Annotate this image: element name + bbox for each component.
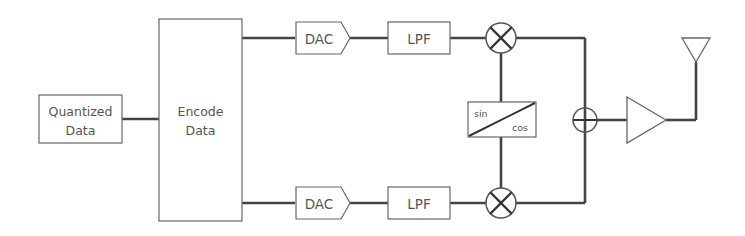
oscillator-cos-label: cos <box>512 122 528 133</box>
mixer-top-icon <box>486 23 516 53</box>
transmitter-block-diagram: Quantized Data Encode Data DAC LPF DAC L… <box>0 0 745 236</box>
encode-data-label-2: Data <box>186 123 216 138</box>
quantized-data-label-1: Quantized <box>49 104 113 119</box>
quantized-data-block: Quantized Data <box>39 95 122 143</box>
dac-top-label: DAC <box>305 31 334 47</box>
antenna-icon <box>682 38 710 62</box>
lpf-top-label: LPF <box>407 31 430 47</box>
oscillator-block: sin cos <box>468 102 536 137</box>
dac-bottom-block: DAC <box>296 187 350 219</box>
encode-data-label-1: Encode <box>178 104 224 119</box>
lpf-bottom-label: LPF <box>407 196 430 212</box>
quantized-data-label-2: Data <box>66 123 96 138</box>
lpf-bottom-block: LPF <box>388 187 450 219</box>
dac-bottom-label: DAC <box>305 196 334 212</box>
encode-data-block: Encode Data <box>159 19 242 221</box>
mixer-bottom-icon <box>486 188 516 218</box>
amplifier-icon <box>627 97 666 143</box>
lpf-top-block: LPF <box>388 22 450 54</box>
dac-top-block: DAC <box>296 22 350 54</box>
oscillator-sin-label: sin <box>474 108 488 119</box>
